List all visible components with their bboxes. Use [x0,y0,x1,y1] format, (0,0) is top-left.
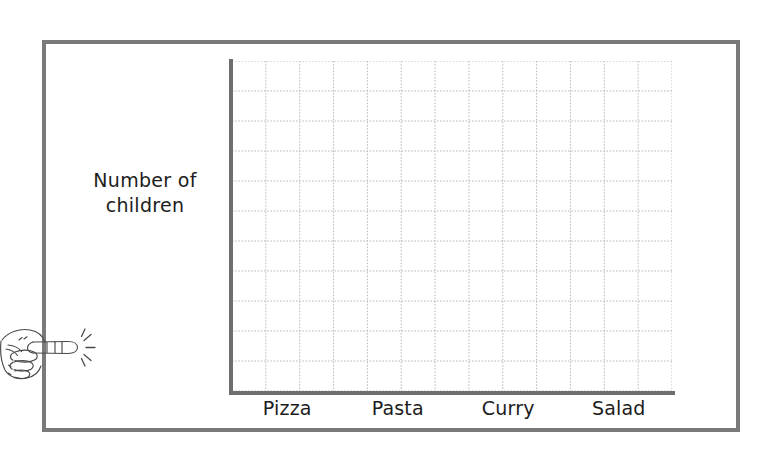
pointing-hand-icon [0,318,104,384]
sparkle-lines-icon [82,329,96,366]
y-axis-label-line-2: children [70,193,220,218]
category-label-salad: Salad [564,396,675,422]
category-label-pizza: Pizza [232,396,343,422]
y-axis-line [229,59,233,393]
category-label-pasta: Pasta [343,396,454,422]
y-axis-label-line-1: Number of [70,168,220,193]
x-axis-category-labels: Pizza Pasta Curry Salad [232,396,674,422]
chart-gridlines [232,61,672,391]
category-label-curry: Curry [453,396,564,422]
x-axis-line [229,391,675,395]
y-axis-label: Number of children [70,168,220,218]
chart-plot-area[interactable] [232,61,674,393]
